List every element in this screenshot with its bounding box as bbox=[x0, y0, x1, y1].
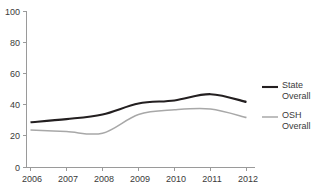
y-tick-label: 20 bbox=[10, 131, 20, 141]
legend-label-line2: Overall bbox=[282, 91, 311, 101]
legend-line-swatch-icon bbox=[262, 115, 278, 119]
chart-screenshot: 100 80 60 40 20 0 2006 2007 2 bbox=[0, 0, 314, 192]
series-line-state-overall bbox=[31, 94, 247, 122]
x-tick-label: 2010 bbox=[166, 174, 186, 184]
x-tick-label: 2008 bbox=[94, 174, 114, 184]
x-tick-label: 2012 bbox=[238, 174, 258, 184]
line-chart-figure: 100 80 60 40 20 0 2006 2007 2 bbox=[0, 0, 314, 192]
x-tick-label: 2006 bbox=[22, 174, 42, 184]
x-axis-tick-labels: 2006 2007 2008 2009 2010 2011 2012 bbox=[22, 174, 258, 184]
x-tick-label: 2011 bbox=[202, 174, 221, 184]
y-tick-label: 0 bbox=[15, 163, 20, 173]
x-tick-label: 2007 bbox=[58, 174, 78, 184]
legend-label-line1: State bbox=[282, 80, 303, 90]
y-axis-tick-labels: 100 80 60 40 20 0 bbox=[5, 7, 20, 173]
legend-item-state-overall: State Overall bbox=[262, 80, 314, 101]
series-line-osh-overall bbox=[31, 108, 247, 134]
legend-label-state-overall: State Overall bbox=[282, 80, 311, 101]
y-tick-label: 60 bbox=[10, 69, 20, 79]
x-axis-ticks bbox=[31, 168, 247, 172]
y-tick-label: 40 bbox=[10, 100, 20, 110]
y-tick-label: 100 bbox=[5, 7, 20, 17]
y-axis-ticks bbox=[23, 12, 27, 168]
legend-label-osh-overall: OSH Overall bbox=[282, 110, 311, 131]
legend-line-swatch-icon bbox=[262, 85, 278, 89]
legend-item-osh-overall: OSH Overall bbox=[262, 110, 314, 131]
x-tick-label: 2009 bbox=[130, 174, 150, 184]
legend-label-line1: OSH bbox=[282, 110, 302, 120]
chart-legend: State Overall OSH Overall bbox=[262, 80, 314, 140]
legend-label-line2: Overall bbox=[282, 121, 311, 131]
y-tick-label: 80 bbox=[10, 38, 20, 48]
